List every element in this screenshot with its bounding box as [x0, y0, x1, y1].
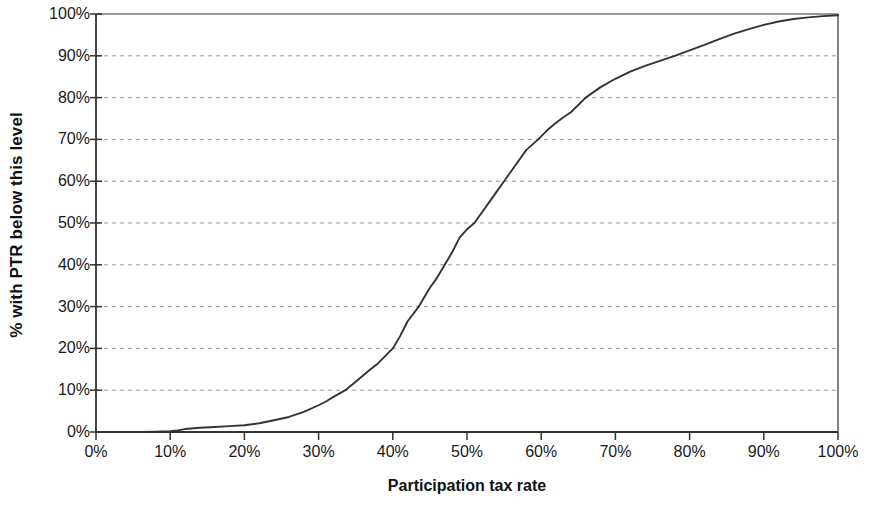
x-axis-tick-label: 80% — [674, 443, 706, 461]
x-axis-tick-label: 0% — [84, 443, 107, 461]
x-axis-title: Participation tax rate — [96, 477, 838, 495]
gridlines — [96, 56, 838, 390]
x-axis-tick-label: 60% — [525, 443, 557, 461]
x-axis-tick-label: 10% — [154, 443, 186, 461]
x-axis-tick-labels: 0%10%20%30%40%50%60%70%80%90%100% — [96, 443, 838, 467]
axis-ticks — [90, 14, 838, 440]
x-axis-tick-label: 90% — [748, 443, 780, 461]
x-axis-tick-label: 20% — [228, 443, 260, 461]
x-axis-tick-label: 70% — [599, 443, 631, 461]
data-series-line — [96, 15, 838, 432]
x-axis-tick-label: 50% — [451, 443, 483, 461]
chart-container: % with PTR below this level 0%10%20%30%4… — [0, 0, 869, 524]
x-axis-tick-label: 100% — [818, 443, 859, 461]
x-axis-tick-label: 40% — [377, 443, 409, 461]
x-axis-tick-label: 30% — [303, 443, 335, 461]
